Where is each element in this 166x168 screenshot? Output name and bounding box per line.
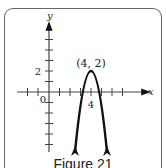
arrow-right-icon (103, 146, 111, 156)
arrow-left-icon (71, 146, 79, 156)
x-axis-label: x (148, 86, 154, 97)
y-axis-label: y (46, 10, 53, 21)
vertex-label: (4, 2) (76, 57, 106, 70)
x-tick-label: 4 (88, 99, 94, 110)
origin-label: 0 (40, 94, 46, 105)
figure-caption: Figure 21 (0, 156, 166, 168)
y-tick-label: 2 (35, 66, 41, 77)
parabola-graph: (4, 2) 2 0 4 x y (0, 0, 166, 168)
parabola-curve (75, 71, 107, 152)
